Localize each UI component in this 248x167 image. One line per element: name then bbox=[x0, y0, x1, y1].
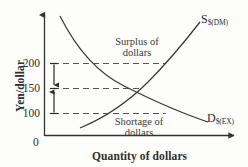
y-tick-label-150: 150 bbox=[12, 82, 40, 94]
surplus-region-label-line2: dollars bbox=[101, 47, 173, 58]
supply-curve-label: S$(DM) bbox=[201, 13, 228, 27]
shortage-region-label-line1: Shortage of bbox=[100, 116, 178, 127]
demand-curve-label-subscript: $(EX) bbox=[216, 117, 234, 126]
demand-curve-label-base: D bbox=[207, 111, 216, 125]
supply-curve-label-base: S bbox=[201, 12, 208, 26]
origin-label: 0 bbox=[33, 136, 39, 148]
supply-curve-label-subscript: $(DM) bbox=[208, 18, 228, 27]
demand-curve bbox=[60, 16, 208, 122]
x-axis-title: Quantity of dollars bbox=[92, 150, 187, 162]
shortage-region-label-line2: dollars bbox=[100, 127, 178, 138]
y-tick-label-200: 200 bbox=[12, 57, 40, 69]
foreign-exchange-chart: Yen/dollar 200 150 100 0 Quantity of dol… bbox=[0, 0, 248, 167]
surplus-region-label-line1: Surplus of bbox=[101, 36, 173, 47]
demand-curve-label: D$(EX) bbox=[207, 112, 234, 126]
y-tick-label-100: 100 bbox=[12, 107, 40, 119]
